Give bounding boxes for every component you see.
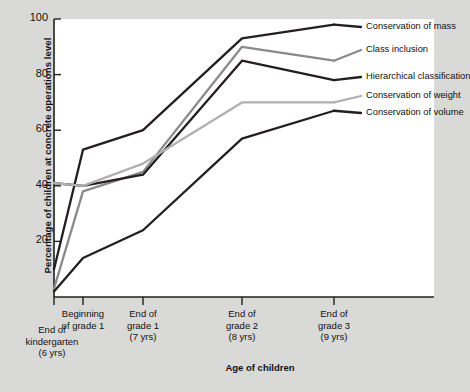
x-tick-label-line: grade 2 <box>192 320 292 332</box>
x-tick-label-3: End ofgrade 2(8 yrs) <box>192 308 292 343</box>
legend-item-1: Class inclusion <box>366 44 428 54</box>
legend-swatch-0 <box>334 25 361 27</box>
legend-item-2: Hierarchical classification <box>366 71 470 81</box>
legend-swatch-3 <box>334 96 361 102</box>
x-axis-title: Age of children <box>150 362 370 373</box>
legend-item-4: Conservation of volume <box>366 107 464 117</box>
x-tick-label-line: (6 yrs) <box>2 347 102 359</box>
x-tick-label-2: End ofgrade 1(7 yrs) <box>93 308 193 343</box>
x-tick-label-line: (7 yrs) <box>93 331 193 343</box>
y-tick-label-60: 60 <box>18 122 48 134</box>
legend-item-0: Conservation of mass <box>366 21 456 31</box>
legend-item-3: Conservation of weight <box>366 90 461 100</box>
x-tick-label-line: (9 yrs) <box>284 331 384 343</box>
x-tick-label-line: End of <box>93 308 193 320</box>
x-tick-label-line: kindergarten <box>2 336 102 348</box>
legend-swatch-4 <box>334 111 361 113</box>
x-tick-label-line: grade 3 <box>284 320 384 332</box>
legend-swatch-2 <box>334 77 361 80</box>
x-tick-label-line: grade 1 <box>93 320 193 332</box>
x-tick-label-4: End ofgrade 3(9 yrs) <box>284 308 384 343</box>
x-tick-label-line: (8 yrs) <box>192 331 292 343</box>
x-tick-label-line: End of <box>284 308 384 320</box>
legend-swatch-1 <box>334 50 361 61</box>
series-line-0 <box>54 25 334 270</box>
chart-figure: Percentage of children at concrete opera… <box>0 0 470 392</box>
y-axis-title: Percentage of children at concrete opera… <box>42 21 53 291</box>
y-tick-label-100: 100 <box>18 11 48 23</box>
series-line-4 <box>54 111 334 292</box>
legend-swatches <box>334 25 361 113</box>
y-tick-label-80: 80 <box>18 67 48 79</box>
data-series-lines <box>54 25 334 292</box>
x-axis-ticks <box>54 297 334 305</box>
y-tick-label-20: 20 <box>18 233 48 245</box>
x-tick-label-line: End of <box>192 308 292 320</box>
y-axis-ticks <box>54 19 61 241</box>
y-tick-label-40: 40 <box>18 178 48 190</box>
